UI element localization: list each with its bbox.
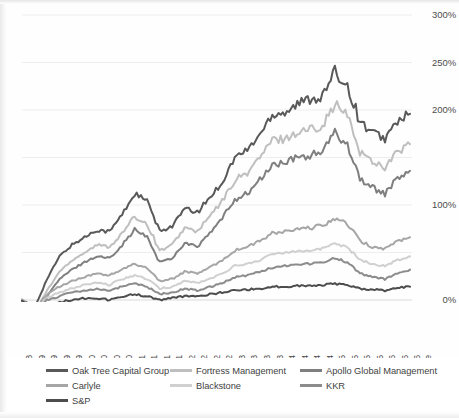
- legend-label: S&P: [72, 396, 90, 406]
- legend-item[interactable]: Carlyle: [46, 379, 101, 392]
- legend-label: Blackstone: [196, 381, 241, 391]
- legend-label: Apollo Global Management: [326, 366, 437, 376]
- legend-swatch-icon: [170, 384, 192, 387]
- legend-swatch-icon: [46, 399, 68, 402]
- legend-swatch-icon: [46, 369, 68, 372]
- y-axis-tick-label: 100%: [414, 199, 456, 210]
- y-axis-tick-label: 200%: [414, 104, 456, 115]
- legend-swatch-icon: [46, 384, 68, 387]
- x-axis-labels: 12/1/20083/2/20096/1/20099/1/200912/1/20…: [0, 301, 459, 357]
- legend-label: KKR: [326, 381, 345, 391]
- legend-label: Oak Tree Capital Group: [72, 366, 169, 376]
- series-line-fortress-management: [22, 101, 410, 302]
- legend-item[interactable]: Blackstone: [170, 379, 241, 392]
- line-chart-svg: [0, 0, 459, 302]
- legend-item[interactable]: KKR: [300, 379, 345, 392]
- chart-container: 0%100%200%250%300% 12/1/20083/2/20096/1/…: [0, 0, 459, 418]
- legend-item[interactable]: Fortress Management: [170, 364, 286, 377]
- y-axis-tick-label: 250%: [414, 57, 456, 68]
- legend-label: Fortress Management: [196, 366, 286, 376]
- legend-swatch-icon: [300, 384, 322, 387]
- legend-item[interactable]: Oak Tree Capital Group: [46, 364, 169, 377]
- legend-item[interactable]: S&P: [46, 394, 90, 407]
- y-axis-tick-label: 300%: [414, 9, 456, 20]
- chart-legend: Oak Tree Capital GroupFortress Managemen…: [0, 358, 459, 414]
- series-line-carlyle: [22, 218, 410, 302]
- legend-swatch-icon: [170, 369, 192, 372]
- legend-swatch-icon: [300, 369, 322, 372]
- legend-item[interactable]: Apollo Global Management: [300, 364, 437, 377]
- legend-label: Carlyle: [72, 381, 101, 391]
- plot-area: [0, 0, 459, 302]
